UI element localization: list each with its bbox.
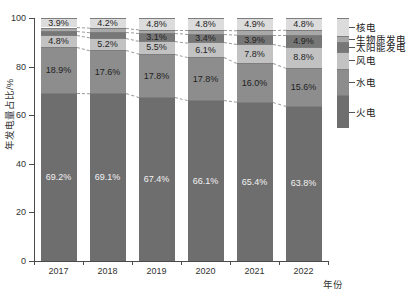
leader-line: [223, 100, 236, 103]
y-tick-label: 80: [16, 62, 26, 72]
bar-segment[interactable]: 4.2%: [90, 18, 126, 28]
bar-segment[interactable]: 18.9%: [41, 47, 77, 93]
bar-segment[interactable]: 16.0%: [237, 63, 273, 102]
legend-tick: [349, 82, 355, 83]
bar-segment[interactable]: 5.5%: [139, 41, 175, 54]
legend-label[interactable]: 太阳能发电: [356, 40, 406, 54]
bar-column[interactable]: 63.8%15.6%8.8%4.9%4.8%: [286, 18, 322, 261]
bar-segment[interactable]: 4.8%: [188, 18, 224, 30]
segment-value-label: 4.8%: [293, 20, 314, 29]
segment-value-label: 3.1%: [146, 33, 167, 41]
bar-segment[interactable]: 4.8%: [41, 35, 77, 47]
y-tick: [29, 18, 34, 19]
bar-segment[interactable]: 7.8%: [237, 44, 273, 63]
bar-column[interactable]: 67.4%17.8%5.5%3.1%4.8%: [139, 18, 175, 261]
x-tick: [181, 261, 182, 265]
segment-value-label: 17.8%: [144, 72, 170, 81]
bar-segment[interactable]: 8.8%: [286, 47, 322, 68]
leader-line: [125, 50, 138, 55]
bar-segment[interactable]: 65.4%: [237, 102, 273, 261]
x-tick-label: 2022: [293, 266, 313, 276]
x-tick: [132, 261, 133, 265]
segment-value-label: 4.2%: [97, 19, 118, 28]
bar-segment[interactable]: [237, 30, 273, 35]
segment-value-label: 65.4%: [242, 178, 268, 187]
segment-value-label: 66.1%: [193, 177, 219, 186]
bar-segment[interactable]: 17.8%: [188, 57, 224, 100]
bar-segment[interactable]: 3.9%: [41, 18, 77, 27]
leader-line: [223, 57, 236, 64]
bar-segment[interactable]: [41, 28, 77, 31]
x-tick: [83, 261, 84, 265]
leader-line: [174, 97, 187, 101]
leader-line: [272, 63, 285, 69]
y-tick-label: 0: [21, 256, 26, 266]
bar-column[interactable]: 66.1%17.8%6.1%3.4%4.8%: [188, 18, 224, 261]
bar-segment[interactable]: 4.8%: [286, 18, 322, 30]
segment-value-label: 5.5%: [146, 43, 167, 52]
segment-value-label: 17.6%: [95, 68, 121, 77]
bar-segment[interactable]: 67.4%: [139, 97, 175, 261]
leader-line: [76, 35, 89, 38]
segment-value-label: 3.9%: [48, 19, 69, 28]
y-axis-line: [34, 18, 35, 261]
bar-segment[interactable]: 63.8%: [286, 106, 322, 261]
bar-column[interactable]: 65.4%16.0%7.8%3.9%4.9%: [237, 18, 273, 261]
x-tick-label: 2019: [146, 266, 166, 276]
y-tick: [29, 164, 34, 165]
x-tick: [279, 261, 280, 265]
legend-label[interactable]: 火电: [356, 105, 376, 119]
segment-value-label: 16.0%: [242, 79, 268, 88]
bar-segment[interactable]: 3.9%: [237, 35, 273, 44]
leader-line: [223, 42, 236, 45]
y-tick: [29, 115, 34, 116]
bar-column[interactable]: 69.1%17.6%5.2%4.2%: [90, 18, 126, 261]
y-tick-label: 20: [16, 207, 26, 217]
y-axis-title: 年发电量占比/%: [2, 79, 16, 150]
bar-segment[interactable]: 4.9%: [286, 35, 322, 47]
segment-value-label: 6.1%: [195, 46, 216, 55]
legend-swatch: [337, 36, 349, 43]
bar-segment[interactable]: 3.4%: [188, 34, 224, 42]
bar-segment[interactable]: 6.1%: [188, 42, 224, 57]
leader-line: [174, 54, 187, 58]
leader-line: [76, 47, 89, 51]
legend-swatch: [337, 52, 349, 69]
bar-segment[interactable]: [90, 32, 126, 38]
legend-swatch: [337, 18, 349, 36]
bar-segment[interactable]: [139, 30, 175, 33]
y-tick: [29, 212, 34, 213]
bar-segment[interactable]: 17.6%: [90, 50, 126, 93]
legend-tick: [349, 47, 355, 48]
leader-line: [76, 31, 89, 33]
segment-value-label: 63.8%: [291, 179, 317, 188]
bar-segment[interactable]: [286, 30, 322, 35]
bar-segment[interactable]: [41, 31, 77, 35]
y-tick-label: 60: [16, 110, 26, 120]
y-tick: [29, 67, 34, 68]
bar-segment[interactable]: 15.6%: [286, 68, 322, 106]
leader-line: [174, 33, 187, 35]
bar-segment[interactable]: 69.1%: [90, 93, 126, 261]
bar-segment[interactable]: [188, 30, 224, 34]
bar-segment[interactable]: 4.9%: [237, 18, 273, 30]
leader-line: [272, 102, 285, 107]
x-axis-title: 年份: [323, 277, 343, 291]
legend: 核电生物质发电太阳能发电风电水电火电: [337, 18, 349, 128]
segment-value-label: 3.9%: [244, 36, 265, 45]
bar-segment[interactable]: 5.2%: [90, 38, 126, 51]
bar-segment[interactable]: [90, 28, 126, 32]
segment-value-label: 17.8%: [193, 75, 219, 84]
bar-segment[interactable]: 17.8%: [139, 54, 175, 97]
bar-column[interactable]: 69.2%18.9%4.8%3.9%: [41, 18, 77, 261]
legend-label[interactable]: 风电: [356, 53, 376, 67]
legend-swatch: [337, 95, 349, 128]
leader-line: [273, 35, 286, 36]
bar-segment[interactable]: 3.1%: [139, 33, 175, 41]
bar-segment[interactable]: 66.1%: [188, 100, 224, 261]
legend-label[interactable]: 水电: [356, 75, 376, 89]
bar-segment[interactable]: 4.8%: [139, 18, 175, 30]
bar-segment[interactable]: 69.2%: [41, 93, 77, 261]
x-tick-label: 2018: [97, 266, 117, 276]
segment-value-label: 4.8%: [48, 37, 69, 46]
